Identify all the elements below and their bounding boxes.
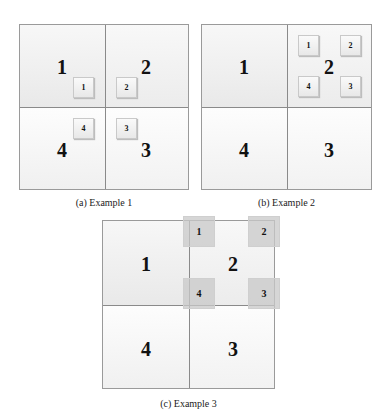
quadrant-label-4: 4 xyxy=(136,339,156,359)
quadrant-label-2: 2 xyxy=(136,57,156,77)
subbox-4: 4 xyxy=(298,76,319,97)
quadrant-label-2: 2 xyxy=(319,57,339,77)
subbox-3: 3 xyxy=(340,76,361,97)
horizontal-divider xyxy=(20,107,188,108)
quadrant-label-1: 1 xyxy=(234,57,254,77)
caption-example-1: (a) Example 1 xyxy=(19,197,189,208)
overlay-box-2: 2 xyxy=(248,216,280,247)
quadrant-label-2: 2 xyxy=(223,254,243,274)
quadrant-label-1: 1 xyxy=(136,254,156,274)
overlay-box-1: 1 xyxy=(183,216,215,247)
subbox-2: 2 xyxy=(340,35,361,56)
quadrant-label-3: 3 xyxy=(223,339,243,359)
horizontal-divider xyxy=(202,107,371,108)
overlay-box-4: 4 xyxy=(183,278,215,309)
overlay-box-3: 3 xyxy=(248,278,280,309)
quadrant-label-4: 4 xyxy=(52,140,72,160)
quadrant-label-3: 3 xyxy=(136,140,156,160)
panel-example-2: 1 2 4 3 1 2 4 3 xyxy=(201,24,372,190)
panel-example-1: 1 2 4 3 1 2 4 3 xyxy=(19,24,189,190)
subbox-2: 2 xyxy=(116,77,137,98)
subbox-4: 4 xyxy=(73,118,94,139)
subbox-1: 1 xyxy=(298,35,319,56)
quadrant-label-4: 4 xyxy=(234,140,254,160)
subbox-3: 3 xyxy=(116,118,137,139)
quadrant-label-3: 3 xyxy=(319,140,339,160)
caption-example-2: (b) Example 2 xyxy=(201,197,372,208)
quadrant-label-1: 1 xyxy=(52,57,72,77)
caption-example-3: (c) Example 3 xyxy=(102,398,275,409)
subbox-1: 1 xyxy=(73,77,94,98)
